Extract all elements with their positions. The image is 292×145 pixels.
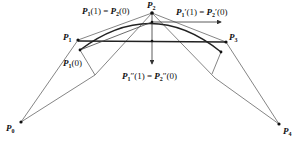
equation-position-continuity: P1(1) = P2(0) xyxy=(82,6,130,19)
label-p3: P3 xyxy=(229,32,238,45)
label-p1: P1 xyxy=(63,32,72,45)
label-p0: P0 xyxy=(6,123,15,136)
label-p1-at-0: P1(0) xyxy=(63,58,82,71)
bezier-continuity-diagram: P0 P1 P2 P3 P4 P1(1) = P2(0) P1′(1) = P2… xyxy=(0,0,292,145)
bezier-curve xyxy=(80,23,221,52)
label-p2: P2 xyxy=(147,0,156,13)
equation-second-derivative-continuity: P1″(1) = P2″(0) xyxy=(122,71,177,84)
control-polygon xyxy=(21,13,279,124)
equation-first-derivative-continuity: P1′(1) = P2′(0) xyxy=(176,7,228,20)
label-p4: P4 xyxy=(283,126,292,139)
